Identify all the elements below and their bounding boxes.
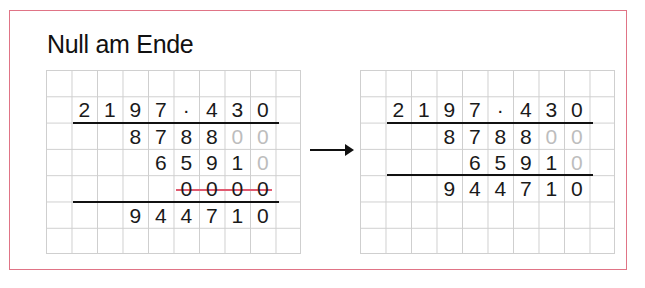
digit: 0 [199, 175, 225, 201]
digit: 0 [539, 123, 565, 149]
digit: 5 [488, 149, 514, 175]
digit: 4 [462, 175, 488, 201]
digit: 1 [225, 149, 251, 175]
digit: · [174, 96, 200, 122]
digit: 2 [386, 96, 412, 122]
digit: 6 [148, 149, 174, 175]
digit: 1 [411, 96, 437, 122]
digit: 0 [564, 149, 590, 175]
digit: 9 [513, 149, 539, 175]
digit: 4 [488, 175, 514, 201]
digit: 4 [148, 202, 174, 228]
digit: 0 [250, 202, 276, 228]
digit: 0 [564, 123, 590, 149]
digit: 7 [462, 123, 488, 149]
digit: 4 [174, 202, 200, 228]
digit: 8 [513, 123, 539, 149]
digit: 1 [97, 96, 123, 122]
digit: 9 [199, 149, 225, 175]
digit: 8 [488, 123, 514, 149]
digit: 7 [513, 175, 539, 201]
digit: 9 [437, 175, 463, 201]
digit: 0 [564, 175, 590, 201]
digit: 0 [564, 96, 590, 122]
digit: 7 [462, 96, 488, 122]
digit: 1 [539, 175, 565, 201]
digit: 3 [539, 96, 565, 122]
digit: 8 [437, 123, 463, 149]
digit: 0 [174, 175, 200, 201]
digit: 8 [123, 123, 149, 149]
right-calculation-grid: 2197·43087880065910944710 [360, 70, 615, 254]
left-calculation-grid: 2197·430878800659100000944710 [46, 70, 301, 254]
digit: 5 [174, 149, 200, 175]
digit: 0 [225, 175, 251, 201]
digit: 9 [123, 96, 149, 122]
digit: 0 [225, 123, 251, 149]
digit: 7 [199, 202, 225, 228]
digit: 0 [250, 123, 276, 149]
digit: 1 [539, 149, 565, 175]
title: Null am Ende [47, 29, 193, 59]
digit: 9 [123, 202, 149, 228]
digit: 7 [148, 96, 174, 122]
digit: 2 [72, 96, 98, 122]
digit: 8 [174, 123, 200, 149]
digit: 1 [225, 202, 251, 228]
digit: · [488, 96, 514, 122]
digit: 6 [462, 149, 488, 175]
digit: 0 [250, 175, 276, 201]
digit: 9 [437, 96, 463, 122]
digit: 3 [225, 96, 251, 122]
digit: 7 [148, 123, 174, 149]
digit: 8 [199, 123, 225, 149]
digit: 4 [199, 96, 225, 122]
digit: 0 [250, 96, 276, 122]
digit: 0 [250, 149, 276, 175]
digit: 4 [513, 96, 539, 122]
arrow-right-icon [310, 149, 352, 151]
